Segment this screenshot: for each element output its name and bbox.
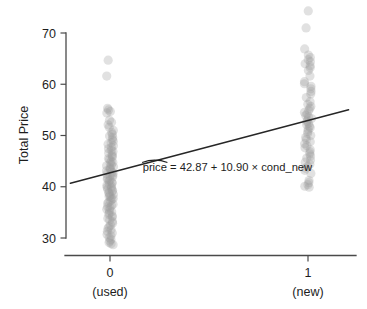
y-axis-tick-label: 70 — [42, 27, 56, 41]
x-axis-tick-sublabel: (new) — [292, 285, 323, 299]
x-axis-tick-label: 0 — [107, 266, 114, 280]
y-axis-tick-label: 60 — [42, 78, 56, 92]
y-axis-tick-label: 50 — [42, 129, 56, 143]
x-axis-ticks-group: 0(used)1(new) — [92, 256, 323, 300]
equation-hat-word: price — [143, 161, 167, 173]
x-axis-tick-sublabel: (used) — [92, 285, 127, 299]
data-point — [301, 23, 310, 32]
x-axis-tick-label: 1 — [305, 266, 312, 280]
data-point — [102, 71, 111, 80]
data-point — [305, 183, 314, 192]
y-axis-tick-label: 40 — [42, 180, 56, 194]
y-axis-tick-label: 30 — [42, 232, 56, 246]
data-points-group — [102, 6, 316, 249]
data-point — [304, 6, 313, 15]
y-axis-title: Total Price — [17, 106, 31, 164]
y-axis-ticks-group: 3040506070 — [42, 27, 66, 246]
equation-label: price = 42.87 + 10.90 × cond_new — [143, 161, 313, 173]
regression-equation-annotation: price = 42.87 + 10.90 × cond_new — [142, 160, 313, 173]
equation-rest: = 42.87 + 10.90 × cond_new — [167, 161, 313, 173]
data-point — [109, 240, 118, 249]
chart-canvas: 3040506070 0(used)1(new) Total Price pri… — [0, 0, 367, 309]
data-point — [104, 56, 113, 65]
scatter-plot-figure: 3040506070 0(used)1(new) Total Price pri… — [0, 0, 367, 309]
